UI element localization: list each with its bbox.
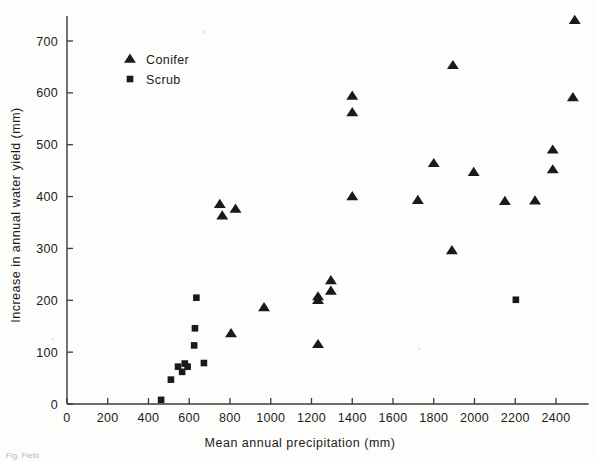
x-tick-label: 2200 <box>501 411 530 425</box>
legend-label-conifer: Conifer <box>146 53 189 67</box>
data-point-scrub <box>184 363 191 370</box>
y-tick-label: 600 <box>36 86 58 100</box>
data-point-scrub <box>191 342 198 349</box>
y-tick-label: 400 <box>36 190 58 204</box>
x-tick-label: 2400 <box>541 411 570 425</box>
y-tick-label: 700 <box>36 35 58 49</box>
data-point-conifer <box>258 302 270 311</box>
x-tick-label: 2000 <box>460 411 489 425</box>
y-axis-title: Increase in annual water yield (mm) <box>9 107 23 323</box>
y-tick-label: 300 <box>36 242 58 256</box>
x-tick-label: 200 <box>97 411 119 425</box>
x-tick-label: 1400 <box>338 411 367 425</box>
data-point-conifer <box>428 158 440 167</box>
x-tick-label: 1200 <box>297 411 326 425</box>
data-point-conifer <box>346 191 358 200</box>
y-tick-label: 0 <box>51 398 58 412</box>
legend-marker-scrub <box>127 76 134 83</box>
data-point-conifer <box>325 285 337 294</box>
series-scrub <box>158 294 519 403</box>
data-point-conifer <box>325 275 337 284</box>
series-conifer <box>214 15 581 348</box>
data-point-scrub <box>158 397 165 404</box>
data-point-conifer <box>499 196 511 205</box>
data-point-scrub <box>193 294 200 301</box>
scan-speck <box>418 348 420 350</box>
data-point-conifer <box>225 328 237 337</box>
data-point-conifer <box>468 167 480 176</box>
x-tick-label: 800 <box>219 411 241 425</box>
data-point-conifer <box>569 15 581 24</box>
x-tick-label: 1600 <box>378 411 407 425</box>
scan-speck <box>52 338 54 340</box>
data-point-conifer <box>547 144 559 153</box>
x-axis-title: Mean annual precipitation (mm) <box>205 436 396 450</box>
data-point-scrub <box>201 360 208 367</box>
data-point-conifer <box>312 339 324 348</box>
y-tick-label: 200 <box>36 294 58 308</box>
data-point-conifer <box>446 245 458 254</box>
x-tick-label: 600 <box>178 411 200 425</box>
data-point-scrub <box>168 376 175 383</box>
scatter-plot-figure: 0200400600800100012001400160018002000220… <box>0 0 597 461</box>
figure-caption: Fig. Field <box>6 451 39 460</box>
y-tick-label: 500 <box>36 138 58 152</box>
data-point-scrub <box>192 325 199 332</box>
x-tick-label: 1000 <box>256 411 285 425</box>
data-point-conifer <box>230 204 242 213</box>
data-point-conifer <box>447 60 459 69</box>
legend-label-scrub: Scrub <box>146 73 181 87</box>
data-point-scrub <box>513 296 520 303</box>
data-point-conifer <box>214 199 226 208</box>
y-tick-label: 100 <box>36 346 58 360</box>
data-point-conifer <box>346 107 358 116</box>
data-point-conifer <box>567 92 579 101</box>
data-point-conifer <box>529 195 541 204</box>
legend: ConiferScrub <box>124 53 189 87</box>
legend-marker-conifer <box>124 54 136 63</box>
x-tick-label: 0 <box>63 411 70 425</box>
data-point-conifer <box>216 210 228 219</box>
scan-speck <box>203 31 205 33</box>
x-tick-label: 1800 <box>419 411 448 425</box>
x-tick-label: 400 <box>138 411 160 425</box>
plot-svg: 0200400600800100012001400160018002000220… <box>0 0 597 461</box>
data-point-conifer <box>346 90 358 99</box>
data-point-conifer <box>547 164 559 173</box>
data-point-conifer <box>412 195 424 204</box>
